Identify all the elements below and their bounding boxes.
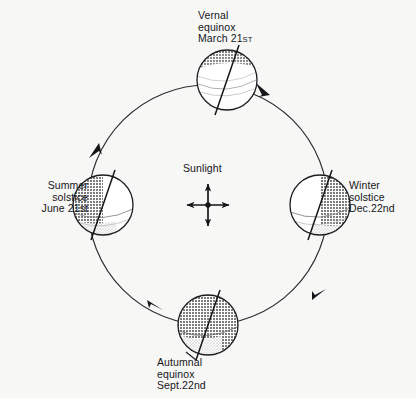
sun-center-dot xyxy=(205,202,210,207)
label-vernal-ordinal: ST xyxy=(243,35,253,44)
label-winter-solstice: Winter solstice Dec.22nd xyxy=(349,180,395,215)
label-vernal-date: March 21 xyxy=(198,32,243,44)
label-autumnal-line3: Sept.22nd xyxy=(157,380,206,392)
label-autumnal-equinox: Autumnal equinox Sept.22nd xyxy=(157,357,206,392)
label-sunlight: Sunlight xyxy=(183,163,222,175)
diagram-canvas: Vernal equinox March 21ST Summer solstic… xyxy=(0,0,416,398)
earth-vernal-equinox xyxy=(197,43,257,115)
earth-autumnal-equinox xyxy=(178,290,238,360)
orbit-arrow-to-winter xyxy=(312,289,326,300)
orbit-arrow-to-autumnal xyxy=(147,300,163,310)
label-vernal-equinox: Vernal equinox March 21ST xyxy=(198,10,253,46)
orbit-arrow-to-summer xyxy=(89,143,102,158)
label-summer-line3: June 21st xyxy=(6,203,88,215)
label-summer-solstice: Summer solstice June 21st xyxy=(6,180,88,215)
label-vernal-line3: March 21ST xyxy=(198,33,253,46)
label-winter-line3: Dec.22nd xyxy=(349,203,395,215)
label-summer-line1: Summer xyxy=(6,180,88,192)
label-vernal-line1: Vernal xyxy=(198,10,253,22)
label-winter-line1: Winter xyxy=(349,180,395,192)
orbit-arrow-to-vernal xyxy=(256,83,270,97)
label-autumnal-line1: Autumnal xyxy=(157,357,206,369)
earth-winter-solstice xyxy=(290,170,350,240)
